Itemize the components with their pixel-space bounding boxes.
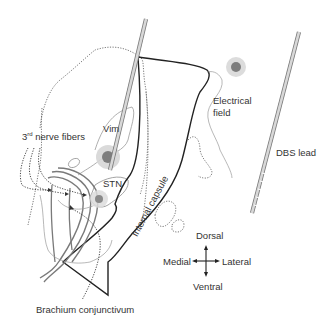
label-vim: Vim [103, 123, 119, 134]
label-dbs-lead: DBS lead [276, 147, 316, 158]
label-electrical-field-2: field [213, 107, 230, 118]
compass-ventral: Ventral [193, 281, 223, 292]
label-electrical-field-1: Electrical [213, 95, 252, 106]
nerve-dotted-2 [29, 148, 66, 194]
thin-fiber-2 [58, 200, 95, 209]
lateral-thin-outline [207, 72, 232, 178]
lateral-dotted-lobe-2 [172, 220, 184, 232]
stn-field-core [95, 195, 103, 203]
label-third-nerve-fibers: 3rd nerve fibers [22, 131, 85, 142]
label-brachium-conjunctivum: Brachium conjunctivum [36, 304, 134, 315]
small-nucleus-outline [67, 157, 81, 170]
compass-medial: Medial [163, 256, 191, 267]
arrowhead-2 [65, 192, 69, 196]
compass-dorsal: Dorsal [196, 230, 223, 241]
diagram-canvas [0, 0, 327, 324]
left-dotted-boundary [28, 108, 42, 225]
legend-field-core [231, 62, 241, 72]
implanted-lead-fill [110, 19, 146, 170]
fiber-vertical-1 [51, 185, 55, 262]
third-nerve-text: nerve fibers [33, 131, 85, 142]
arrowhead-3 [83, 193, 87, 197]
compass-lateral: Lateral [222, 256, 251, 267]
label-stn: STN [103, 178, 122, 189]
compass-arrows [192, 245, 220, 277]
lateral-dotted-outline [188, 137, 212, 178]
legend-lead-fill [252, 32, 299, 213]
